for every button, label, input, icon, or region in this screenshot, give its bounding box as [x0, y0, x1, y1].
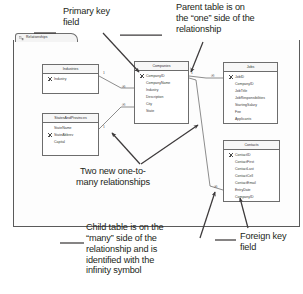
table-companies[interactable]: Companies CompanyID CompanyName Industry… [134, 61, 189, 124]
table-jobs-title: Jobs [224, 63, 277, 72]
field-stateabbrev[interactable]: StateAbbrev [43, 132, 98, 139]
field-contactemail[interactable]: ContactEmail [224, 180, 279, 187]
field-companyid[interactable]: CompanyID [135, 73, 188, 80]
field-applicants[interactable]: Applicants [224, 116, 277, 123]
relationships-tab-label: Relationships [26, 36, 48, 39]
cardinality-companies-one-jobs: 1 [191, 72, 193, 76]
table-jobs-fields: JobID CompanyID JobTitle JobResponsibili… [224, 72, 277, 124]
table-industries-title: Industries [43, 65, 98, 74]
field-fee[interactable]: Fee [224, 109, 277, 116]
field-jobresponsibilities[interactable]: JobResponsibilities [224, 95, 277, 102]
field-entrydate[interactable]: EntryDate [224, 187, 279, 194]
table-industries-fields: Industry [43, 74, 98, 84]
table-companies-fields: CompanyID CompanyName Industry Descripti… [135, 71, 188, 116]
annotation-child-table: Child table is on the “many” side of the… [86, 222, 164, 276]
table-statesandprovinces[interactable]: StatesAndProvinces StateName StateAbbrev… [42, 113, 99, 156]
field-contactfirst[interactable]: ContactFirst [224, 159, 279, 166]
table-contacts-title: Contacts [224, 141, 279, 150]
field-contactcell[interactable]: ContactCell [224, 173, 279, 180]
field-description[interactable]: Description [135, 94, 188, 101]
field-industry[interactable]: Industry [43, 76, 98, 83]
relationships-diagram-figure: Relationships 1 ∞ ∞ 1 1 ∞ ∞ Industries I… [0, 0, 303, 294]
field-companyname[interactable]: CompanyName [135, 80, 188, 87]
relationships-icon [19, 36, 24, 41]
field-contactid[interactable]: ContactID [224, 152, 279, 159]
annotation-primary-key: Primary key field [63, 6, 110, 28]
table-statesandprovinces-fields: StateName StateAbbrev Capital [43, 123, 98, 147]
cardinality-states-one: 1 [103, 126, 105, 130]
table-statesandprovinces-title: StatesAndProvinces [43, 114, 98, 123]
cardinality-jobs-many: ∞ [211, 73, 214, 78]
field-statename[interactable]: StateName [43, 125, 98, 132]
cardinality-contacts-many: ∞ [214, 184, 217, 189]
field-capital[interactable]: Capital [43, 139, 98, 146]
field-jobs-companyid[interactable]: CompanyID [224, 81, 277, 88]
cardinality-industries-one: 1 [103, 72, 105, 76]
field-state[interactable]: State [135, 108, 188, 115]
field-industry-fk[interactable]: Industry [135, 87, 188, 94]
annotation-foreign-key: Foreign key field [240, 231, 286, 253]
table-industries[interactable]: Industries Industry [42, 64, 99, 94]
cardinality-companies-industry-many: ∞ [122, 84, 125, 89]
field-startingsalary[interactable]: StartingSalary [224, 102, 277, 109]
field-jobid[interactable]: JobID [224, 74, 277, 81]
field-contacts-companyid[interactable]: CompanyID [224, 194, 279, 201]
cardinality-companies-state-many: ∞ [122, 102, 125, 107]
field-jobtitle[interactable]: JobTitle [224, 88, 277, 95]
table-contacts-fields: ContactID ContactFirst ContactLast Conta… [224, 150, 279, 202]
table-jobs[interactable]: Jobs JobID CompanyID JobTitle JobRespons… [223, 62, 278, 124]
table-contacts[interactable]: Contacts ContactID ContactFirst ContactL… [223, 140, 280, 202]
annotation-parent-table: Parent table is on the “one” side of the… [176, 2, 255, 35]
field-contactlast[interactable]: ContactLast [224, 166, 279, 173]
relationships-document-tab[interactable]: Relationships [15, 33, 78, 42]
field-city[interactable]: City [135, 101, 188, 108]
annotation-two-relationships: Two new one-to- many relationships [76, 166, 150, 188]
table-companies-title: Companies [135, 62, 188, 71]
